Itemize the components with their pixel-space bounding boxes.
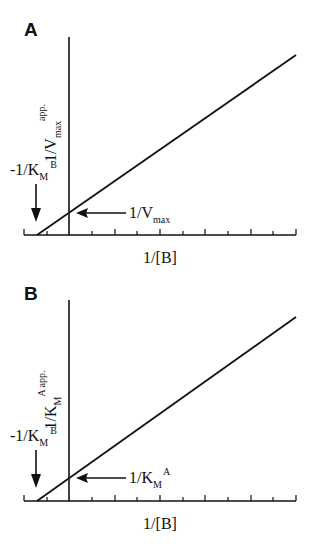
panel-b: B 1/KMA app. -1/KMB 1/KMA 1/[B]: [10, 283, 296, 532]
x-intercept-label: -1/KMB: [10, 425, 57, 448]
x-axis-ticks: [24, 495, 296, 501]
x-axis-label: 1/[B]: [143, 249, 177, 266]
panel-a-label: A: [24, 19, 38, 40]
y-intercept-label: 1/Vmax: [129, 204, 170, 225]
x-axis-ticks: [24, 229, 296, 235]
lineweaver-burk-line: [37, 55, 296, 235]
panel-a: A 1/Vmaxapp. -1/KMB: [10, 19, 296, 266]
svg-text:1/Vmaxapp.: 1/Vmaxapp.: [36, 104, 63, 162]
y-intercept-label: 1/KMA: [129, 466, 171, 490]
panel-b-label: B: [24, 283, 38, 304]
svg-text:1/KMA app.: 1/KMA app.: [36, 370, 63, 429]
x-intercept-label: -1/KMB: [10, 159, 57, 182]
down-arrow-head-icon: [31, 474, 41, 488]
down-arrow-head-icon: [31, 208, 41, 222]
figure: A 1/Vmaxapp. -1/KMB: [0, 0, 315, 555]
x-axis-label: 1/[B]: [143, 515, 177, 532]
y-axis-label: 1/Vmaxapp.: [36, 104, 63, 162]
y-axis-label: 1/KMA app.: [36, 370, 63, 429]
